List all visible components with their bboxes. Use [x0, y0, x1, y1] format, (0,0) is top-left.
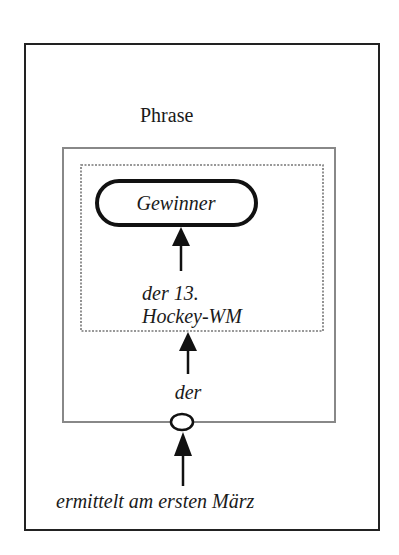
inner-modifier-line1: der 13.: [142, 282, 199, 304]
arrow-head-3-icon: [174, 432, 192, 456]
head-node-label: Gewinner: [137, 192, 216, 214]
phrase-diagram: Phrase Gewinner der 13. Hockey-WM der er…: [0, 0, 399, 555]
attachment-circle: [171, 414, 193, 430]
outer-phrase-box: [25, 44, 379, 530]
arrow-head-1-icon: [172, 227, 190, 246]
determiner-label: der: [175, 381, 202, 403]
arrow-head-2-icon: [179, 332, 197, 351]
external-modifier-label: ermittelt am ersten März: [56, 490, 255, 512]
inner-modifier-line2: Hockey-WM: [141, 305, 243, 328]
phrase-label: Phrase: [140, 104, 193, 126]
